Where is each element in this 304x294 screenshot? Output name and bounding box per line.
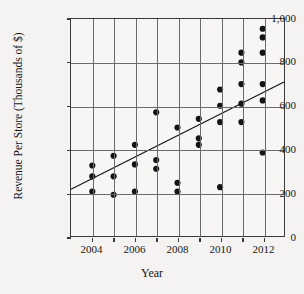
y-axis-tick-label: 0 [291, 232, 297, 243]
x-axis-tick [242, 238, 243, 242]
gridline-horizontal [71, 107, 284, 108]
gridline-horizontal [71, 63, 284, 64]
y-axis-tick [67, 18, 71, 19]
gridline-vertical [93, 19, 94, 236]
x-axis-tick [264, 238, 265, 242]
x-axis-tick [178, 238, 179, 242]
x-axis-tick-label: 2006 [124, 244, 146, 255]
x-axis-tick [156, 238, 157, 242]
gridline-vertical [179, 19, 180, 236]
data-point [174, 124, 180, 130]
y-axis-tick-label: 1,000 [271, 13, 296, 24]
x-axis-title: Year [0, 266, 304, 281]
gridline-vertical [200, 19, 201, 236]
y-axis-tick [67, 150, 71, 151]
y-axis-tick [67, 194, 71, 195]
gridline-vertical [222, 19, 223, 236]
y-axis-tick-label: 600 [280, 100, 297, 111]
gridline-vertical [157, 19, 158, 236]
x-axis-tick-label: 2004 [81, 244, 103, 255]
x-axis-tick [199, 238, 200, 242]
gridline-vertical [114, 19, 115, 236]
x-axis-tick [92, 238, 93, 242]
x-axis-tick [221, 238, 222, 242]
gridline-vertical [265, 19, 266, 236]
gridline-horizontal [71, 150, 284, 151]
trend-line [71, 82, 284, 189]
y-axis-tick [67, 106, 71, 107]
gridline-horizontal [71, 194, 284, 195]
x-axis-tick [113, 238, 114, 242]
x-axis-tick [135, 238, 136, 242]
data-point [174, 180, 180, 186]
x-axis-tick-label: 2010 [210, 244, 232, 255]
gridline-vertical [243, 19, 244, 236]
data-overlay [71, 19, 284, 236]
y-axis-tick-label: 800 [280, 56, 297, 67]
y-axis-tick [67, 237, 71, 238]
plot-area [70, 18, 285, 237]
trend-line-segment [71, 82, 284, 189]
data-point-group [89, 26, 266, 198]
y-axis-tick-label: 200 [280, 188, 297, 199]
y-tick-label-group [0, 0, 70, 219]
y-axis-tick-label: 400 [280, 144, 297, 155]
gridline-vertical [136, 19, 137, 236]
x-axis-tick-label: 2012 [253, 244, 275, 255]
scatter-plot-figure: Revenue Per Store from 2004 to 2012 Reve… [0, 0, 304, 294]
y-axis-tick [67, 62, 71, 63]
x-axis-tick-label: 2008 [167, 244, 189, 255]
